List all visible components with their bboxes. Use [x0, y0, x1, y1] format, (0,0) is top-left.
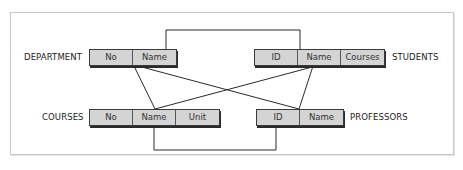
professors-field-id: ID [257, 110, 300, 125]
courses-professors-connector [154, 126, 276, 150]
students-courses-link [155, 66, 316, 109]
dept-professors-link [138, 66, 299, 109]
courses-field-unit: Unit [176, 110, 219, 125]
department-label: DEPARTMENT [24, 49, 82, 66]
courses-field-name: Name [133, 110, 176, 125]
professors-field-name: Name [300, 110, 343, 125]
students-field-id: ID [255, 50, 298, 65]
dept-courses-link [134, 66, 155, 109]
students-label: STUDENTS [392, 49, 438, 66]
students-field-name: Name [298, 50, 341, 65]
students-field-courses: Courses [341, 50, 384, 65]
students-professors-link [299, 66, 313, 109]
department-field-no: No [90, 50, 133, 65]
professors-label: PROFESSORS [350, 109, 408, 126]
department-field-name: Name [133, 50, 176, 65]
courses-table: No Name Unit [89, 109, 220, 126]
courses-label: COURSES [42, 109, 84, 126]
professors-table: ID Name [256, 109, 344, 126]
relationship-lines [0, 0, 463, 170]
dept-students-connector [166, 30, 300, 49]
students-table: ID Name Courses [254, 49, 385, 66]
courses-field-no: No [90, 110, 133, 125]
department-table: No Name [89, 49, 177, 66]
